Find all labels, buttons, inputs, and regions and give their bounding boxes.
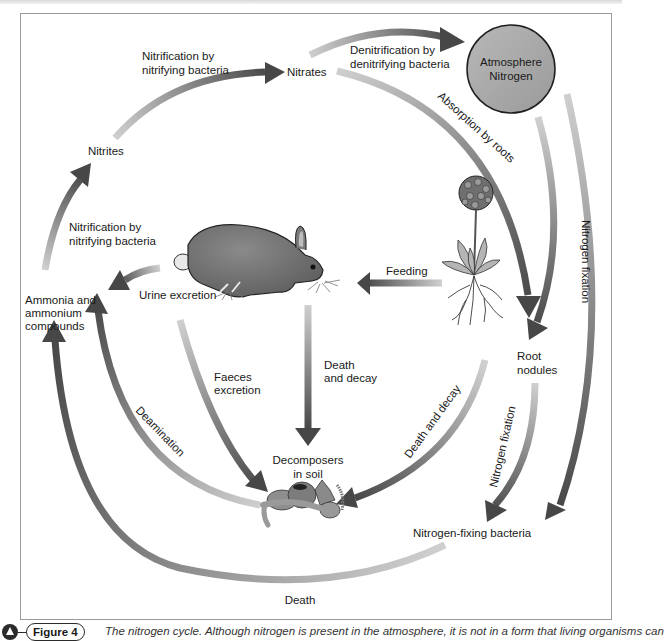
feeding-label: Feeding [386, 265, 428, 277]
urine-excretion-label: Urine excretion [139, 289, 216, 301]
atmosphere-label-2: Nitrogen [489, 70, 532, 82]
arrow-urine-excretion [108, 268, 160, 290]
nitrification-left-label-2: nitrifying bacteria [69, 235, 157, 247]
death-decay-animal-label-1: Death [324, 359, 355, 371]
faeces-label-1: Faeces [214, 371, 252, 383]
arrow-nitrogen-fixation-from-nodules [485, 383, 535, 522]
nitrogen-fixing-bacteria-label: Nitrogen-fixing bacteria [413, 527, 532, 539]
denitrification-label-2: denitrifying bacteria [350, 58, 450, 70]
arrow-death-decay-animal [295, 305, 321, 446]
arrow-deamination [85, 293, 260, 505]
denitrification-label-1: Denitrification by [350, 44, 435, 56]
caption-text: The nitrogen cycle. Although nitrogen is… [105, 624, 625, 638]
ammonia-label-3: compounds [25, 320, 85, 332]
arrow-nitrification-left [45, 163, 91, 270]
plant-illustration [442, 176, 503, 325]
nitrites-label: Nitrites [88, 145, 124, 157]
ammonia-label-1: Ammonia and [25, 294, 96, 306]
ammonia-label-2: ammonium [25, 307, 82, 319]
arrow-nitrogen-fixation-outer [545, 94, 592, 520]
atmosphere-label: Atmosphere [480, 56, 542, 68]
death-decay-animal-label-2: and decay [324, 372, 377, 384]
arrow-faeces-excretion [180, 320, 268, 492]
decomposers-illustration [263, 480, 343, 525]
nitrates-label: Nitrates [287, 66, 327, 78]
nitrification-top-label-2: nitrifying bacteria [142, 64, 230, 76]
root-nodules-label-2: nodules [517, 364, 558, 376]
figure-caption: Figure 4 The nitrogen cycle. Although ni… [0, 622, 622, 641]
figure-connector [18, 632, 26, 633]
arrow-death [42, 320, 445, 580]
atmosphere-nitrogen-node: Atmosphere Nitrogen [467, 25, 555, 113]
decomposers-label-1: Decomposers [273, 454, 344, 466]
root-nodules-label-1: Root [517, 350, 542, 362]
nitrogen-cycle-diagram: Atmosphere Nitrogen [0, 0, 622, 622]
decomposers-label-2: in soil [293, 468, 322, 480]
nitrification-left-label-1: Nitrification by [69, 221, 141, 233]
figure-triangle-icon [2, 624, 18, 640]
faeces-label-2: excretion [214, 384, 261, 396]
figure-number-badge: Figure 4 [26, 623, 85, 641]
death-label: Death [285, 594, 316, 606]
nitrogen-fixation-outer-label: Nitrogen fixation [580, 220, 592, 303]
nitrification-top-label-1: Nitrification by [142, 50, 214, 62]
